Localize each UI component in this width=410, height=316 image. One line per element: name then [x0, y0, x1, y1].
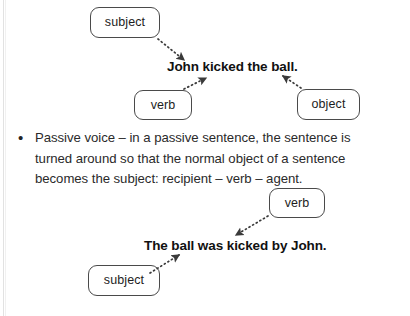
- page-edge-line-secondary: [5, 0, 6, 316]
- arrow-active-verb: [184, 78, 206, 89]
- active-voice-example-sentence: John kicked the ball.: [167, 59, 298, 74]
- passive-voice-bullet: • Passive voice – in a passive sentence,…: [18, 128, 390, 190]
- passive-verb-label-box: verb: [269, 188, 325, 218]
- passive-subject-label-text: subject: [104, 274, 144, 287]
- active-object-label-text: object: [312, 98, 346, 111]
- active-subject-label-text: subject: [105, 16, 145, 29]
- active-object-label-box: object: [297, 89, 360, 120]
- active-subject-label-box: subject: [90, 7, 160, 38]
- document-page: subject John kicked the ball. verb objec…: [0, 0, 410, 316]
- passive-voice-example-sentence: The ball was kicked by John.: [144, 238, 327, 253]
- passive-voice-bullet-text: Passive voice – in a passive sentence, t…: [35, 128, 390, 190]
- passive-subject-label-box: subject: [88, 265, 160, 296]
- active-verb-label-box: verb: [134, 90, 192, 120]
- passive-verb-label-text: verb: [285, 197, 310, 210]
- arrow-active-subject: [158, 39, 184, 60]
- page-edge-line: [3, 0, 4, 316]
- bullet-marker-icon: •: [18, 127, 28, 148]
- active-verb-label-text: verb: [151, 99, 176, 112]
- arrow-passive-verb: [236, 216, 268, 235]
- arrow-active-object: [283, 76, 301, 88]
